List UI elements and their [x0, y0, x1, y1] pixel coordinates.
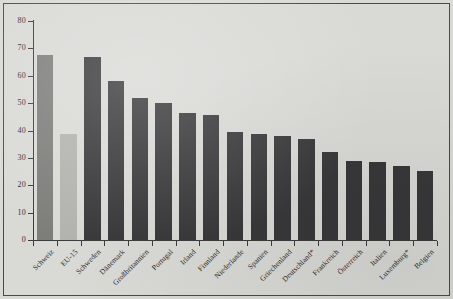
- y-axis-tick-label: 30: [0, 154, 26, 162]
- bar--sterreich: [346, 161, 363, 240]
- y-axis-tick: [28, 76, 33, 77]
- bar-eu-15: [60, 134, 77, 240]
- x-axis-label-belgien: Belgien: [413, 248, 436, 271]
- x-axis-tick: [81, 241, 82, 246]
- bar-finnland: [203, 115, 220, 240]
- x-axis-tick: [247, 241, 248, 246]
- x-axis-tick: [33, 241, 34, 246]
- x-axis-tick: [223, 241, 224, 246]
- bar-gro-britannien: [132, 98, 149, 240]
- x-axis-tick: [199, 241, 200, 246]
- y-axis-tick: [28, 158, 33, 159]
- chart-screenshot: 01020304050607080 SchweizEU-15SchwedenDä…: [0, 0, 453, 299]
- y-axis-tick-label: 80: [0, 17, 26, 25]
- bar-niederlande: [227, 132, 244, 240]
- y-axis-line: [33, 20, 34, 241]
- plot-area: 01020304050607080 SchweizEU-15SchwedenDä…: [0, 0, 453, 299]
- bar-portugal: [155, 103, 172, 240]
- x-axis-tick: [413, 241, 414, 246]
- x-axis-tick: [57, 241, 58, 246]
- y-axis-tick: [28, 103, 33, 104]
- bar-d-nemark: [108, 81, 125, 240]
- x-axis-label-irland: Irland: [179, 248, 198, 267]
- x-axis-label-italien: Italien: [369, 248, 389, 268]
- bar-griechenland: [274, 136, 291, 240]
- y-axis-tick: [28, 185, 33, 186]
- y-axis-tick: [28, 131, 33, 132]
- bar-italien: [369, 162, 386, 240]
- bar-belgien: [417, 171, 434, 240]
- x-axis-tick: [437, 241, 438, 246]
- x-axis-label-eu-15: EU-15: [59, 248, 79, 268]
- x-axis-tick: [366, 241, 367, 246]
- y-axis-tick-label: 60: [0, 72, 26, 80]
- y-axis-tick-label: 20: [0, 181, 26, 189]
- y-axis-tick-label: 40: [0, 127, 26, 135]
- bar-frankreich: [322, 152, 339, 240]
- x-axis-label-portugal: Portugal: [150, 248, 174, 272]
- y-axis-tick: [28, 48, 33, 49]
- x-axis-tick: [294, 241, 295, 246]
- bar-deutschland: [298, 139, 315, 240]
- x-axis-tick: [104, 241, 105, 246]
- bar-luxemburg: [393, 166, 410, 240]
- x-axis-tick: [176, 241, 177, 246]
- y-axis-tick-label: 70: [0, 44, 26, 52]
- x-axis-label-schweiz: Schweiz: [31, 248, 55, 272]
- bar-irland: [179, 113, 196, 240]
- y-axis-tick: [28, 21, 33, 22]
- x-axis-line: [33, 240, 437, 241]
- y-axis-tick-label: 50: [0, 99, 26, 107]
- bar-schweiz: [37, 55, 54, 240]
- x-axis-tick: [342, 241, 343, 246]
- y-axis-tick: [28, 213, 33, 214]
- y-axis-tick-label: 10: [0, 209, 26, 217]
- x-axis-tick: [318, 241, 319, 246]
- y-axis-tick-label: 0: [0, 236, 26, 244]
- x-axis-tick: [389, 241, 390, 246]
- bar-schweden: [84, 57, 101, 240]
- x-axis-tick: [128, 241, 129, 246]
- x-axis-tick: [271, 241, 272, 246]
- x-axis-tick: [152, 241, 153, 246]
- bar-spanien: [251, 134, 268, 240]
